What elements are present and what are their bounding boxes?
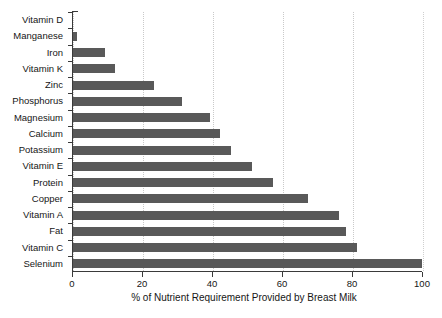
bar-row: [73, 28, 422, 44]
y-axis-tick: [68, 191, 73, 192]
bar-row: [73, 77, 422, 93]
bar: [73, 162, 252, 171]
y-axis-label: Vitamin K: [23, 64, 63, 74]
bars-container: [73, 12, 422, 271]
bar-row: [73, 45, 422, 61]
y-axis-label: Selenium: [23, 259, 63, 269]
bar-row: [73, 191, 422, 207]
y-axis-tick: [68, 175, 73, 176]
y-axis-tick: [68, 158, 73, 159]
y-axis-tick: [68, 142, 73, 143]
y-axis-tick: [68, 110, 73, 111]
x-axis-title: % of Nutrient Requirement Provided by Br…: [0, 292, 442, 303]
x-axis-tick-label: 60: [277, 278, 288, 289]
bar-row: [73, 93, 422, 109]
y-axis-tick: [68, 240, 73, 241]
x-axis-tick-label: 100: [414, 278, 430, 289]
y-axis-labels: Vitamin DManganeseIronVitamin KZincPhosp…: [0, 12, 68, 272]
bar-chart: Vitamin DManganeseIronVitamin KZincPhosp…: [0, 0, 442, 318]
y-axis-label: Vitamin C: [22, 243, 63, 253]
y-axis-label: Vitamin A: [23, 210, 63, 220]
bar: [73, 178, 273, 187]
y-axis-label: Potassium: [19, 145, 63, 155]
bar: [73, 32, 77, 41]
bar-row: [73, 223, 422, 239]
bar: [73, 243, 357, 252]
y-axis-label: Calcium: [29, 129, 63, 139]
bar-row: [73, 240, 422, 256]
x-axis-tick-label: 40: [207, 278, 218, 289]
x-axis-tick: [422, 272, 423, 277]
y-axis-tick: [68, 45, 73, 46]
y-axis-label: Fat: [49, 226, 63, 236]
x-axis-tick-label: 20: [137, 278, 148, 289]
y-axis-tick: [68, 223, 73, 224]
y-axis-label: Zinc: [45, 80, 63, 90]
bar: [73, 113, 210, 122]
x-axis-tick: [212, 272, 213, 277]
bar-row: [73, 61, 422, 77]
bar: [73, 227, 346, 236]
x-axis-title-text: % of Nutrient Requirement Provided by Br…: [85, 292, 357, 303]
y-axis-tick: [68, 77, 73, 78]
bar: [73, 129, 220, 138]
x-axis-tick: [352, 272, 353, 277]
bar: [73, 81, 154, 90]
bar-row: [73, 256, 422, 272]
x-axis-tick-labels: 020406080100: [0, 278, 442, 292]
y-axis-label: Protein: [33, 178, 63, 188]
bar-row: [73, 110, 422, 126]
bar: [73, 48, 105, 57]
plot-area: [72, 12, 422, 272]
bar: [73, 64, 115, 73]
x-axis-tick-label: 0: [69, 278, 74, 289]
bar-row: [73, 175, 422, 191]
bar-row: [73, 158, 422, 174]
y-axis-tick: [68, 256, 73, 257]
bar: [73, 259, 422, 268]
bar: [73, 146, 231, 155]
bar-row: [73, 126, 422, 142]
x-axis-tick: [282, 272, 283, 277]
bar-row: [73, 12, 422, 28]
y-axis-label: Manganese: [13, 31, 63, 41]
bar-row: [73, 142, 422, 158]
x-axis-tick-label: 80: [347, 278, 358, 289]
bar: [73, 194, 308, 203]
y-axis-label: Magnesium: [14, 113, 63, 123]
y-axis-label: Phosphorus: [12, 96, 63, 106]
gridline: [423, 12, 424, 271]
x-axis-tick: [142, 272, 143, 277]
bar-row: [73, 207, 422, 223]
y-axis-tick: [68, 207, 73, 208]
x-axis-tick: [72, 272, 73, 277]
y-axis-label: Iron: [47, 48, 63, 58]
bar: [73, 97, 182, 106]
y-axis-label: Vitamin D: [22, 15, 63, 25]
y-axis-tick: [68, 61, 73, 62]
y-axis-tick: [68, 93, 73, 94]
y-axis-tick: [68, 12, 73, 13]
bar: [73, 211, 339, 220]
y-axis-tick: [68, 126, 73, 127]
y-axis-tick: [68, 28, 73, 29]
y-axis-label: Copper: [32, 194, 63, 204]
y-axis-label: Vitamin E: [23, 161, 63, 171]
